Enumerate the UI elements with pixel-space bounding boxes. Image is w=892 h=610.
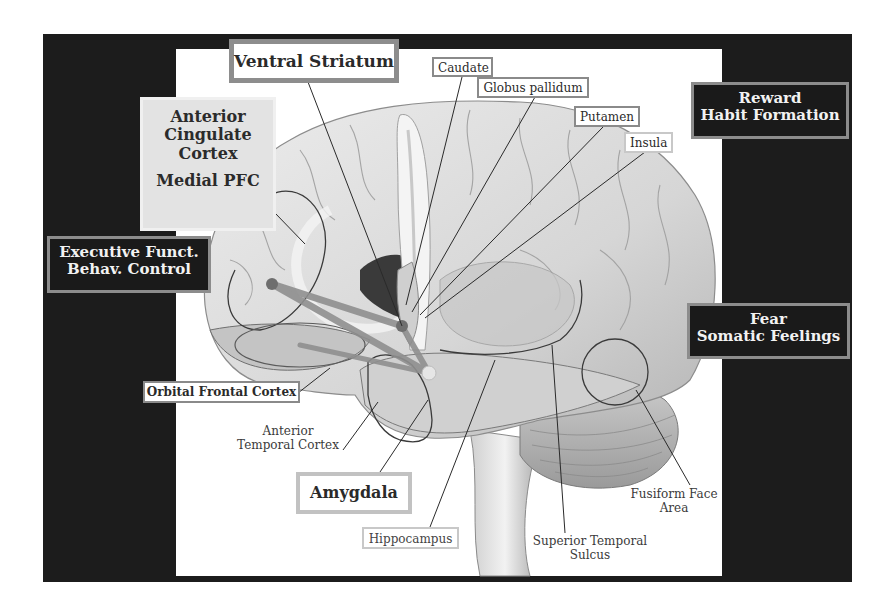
anterior-temporal-line-1: Anterior xyxy=(228,425,348,439)
putamen-label: Putamen xyxy=(574,106,640,127)
somatic-feelings-text: Somatic Feelings xyxy=(690,328,847,345)
globus-pallidum-label: Globus pallidum xyxy=(477,77,589,98)
caudate-label: Caudate xyxy=(432,57,493,77)
fusiform-face-area-label: Fusiform Face Area xyxy=(624,488,724,516)
anterior-temporal-cortex-label: Anterior Temporal Cortex xyxy=(228,425,348,453)
executive-funct-text: Executive Funct. xyxy=(50,244,208,261)
amygdala-label: Amygdala xyxy=(296,472,412,514)
sts-line-2: Sulcus xyxy=(520,549,660,563)
anterior-temporal-line-2: Temporal Cortex xyxy=(228,439,348,453)
acc-mpfc-label: Anterior Cingulate Cortex Medial PFC xyxy=(140,97,276,231)
reward-text: Reward xyxy=(694,90,846,107)
insula-label: Insula xyxy=(624,132,673,153)
medial-pfc-text: Medial PFC xyxy=(143,172,273,190)
amygdala-node xyxy=(422,366,436,380)
executive-function-label: Executive Funct. Behav. Control xyxy=(47,236,211,293)
fear-function-label: Fear Somatic Feelings xyxy=(687,303,850,359)
behav-control-text: Behav. Control xyxy=(50,261,208,278)
fear-text: Fear xyxy=(690,311,847,328)
acc-line-1: Anterior xyxy=(143,108,273,126)
superior-temporal-sulcus-label: Superior Temporal Sulcus xyxy=(520,535,660,563)
orbital-frontal-cortex-label: Orbital Frontal Cortex xyxy=(143,381,300,403)
ffa-line-2: Area xyxy=(624,502,724,516)
ffa-line-1: Fusiform Face xyxy=(624,488,724,502)
sts-line-1: Superior Temporal xyxy=(520,535,660,549)
hippocampus-label: Hippocampus xyxy=(362,527,459,549)
reward-function-label: Reward Habit Formation xyxy=(691,82,849,139)
habit-formation-text: Habit Formation xyxy=(694,107,846,124)
pfc-node xyxy=(266,278,278,290)
acc-line-3: Cortex xyxy=(143,145,273,163)
acc-line-2: Cingulate xyxy=(143,126,273,144)
ventral-striatum-label: Ventral Striatum xyxy=(229,39,399,83)
